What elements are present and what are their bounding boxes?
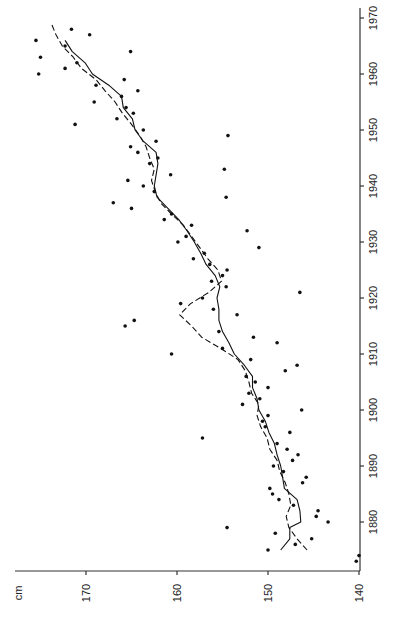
observation-point — [94, 83, 98, 87]
observation-point — [184, 235, 188, 239]
dashed-trend-line — [51, 24, 307, 550]
observation-point — [275, 341, 279, 345]
moving-average-path — [65, 40, 301, 550]
observation-point — [224, 195, 228, 199]
observation-point — [253, 380, 257, 384]
observation-point — [261, 419, 265, 423]
observation-point — [225, 268, 229, 272]
height-tick-label: 170 — [80, 584, 92, 602]
observation-point — [283, 369, 287, 373]
observation-point — [288, 431, 292, 435]
observation-point — [271, 492, 275, 496]
observation-point — [221, 274, 225, 278]
observation-point — [301, 481, 305, 485]
observation-point — [223, 167, 227, 171]
observation-point — [37, 72, 41, 76]
observation-point — [304, 475, 308, 479]
observation-point — [39, 55, 43, 59]
year-tick-label: 1920 — [367, 286, 379, 310]
observation-point — [192, 257, 196, 261]
observation-point — [295, 363, 299, 367]
observation-point — [63, 67, 67, 71]
observation-point — [123, 324, 127, 328]
year-tick-label: 1970 — [367, 6, 379, 30]
observation-point — [115, 117, 119, 121]
height-axis-unit-label: cm — [12, 586, 24, 601]
smoothed-trend-path — [51, 24, 307, 550]
observation-point — [266, 414, 270, 418]
observation-point — [170, 212, 174, 216]
observation-point — [208, 263, 212, 267]
observation-point — [266, 548, 270, 552]
observation-point — [249, 358, 253, 362]
observation-point — [292, 503, 296, 507]
observation-point — [268, 487, 272, 491]
observation-point — [190, 223, 194, 227]
observation-point — [156, 156, 160, 160]
observation-point — [169, 173, 173, 177]
observation-point — [130, 207, 134, 211]
observation-point — [273, 531, 277, 535]
height-by-year-chart: cm170160150140 1880189019001910192019301… — [0, 0, 394, 628]
observation-point — [326, 520, 330, 524]
observation-point — [294, 543, 298, 547]
observation-point — [203, 251, 207, 255]
observation-point — [148, 162, 152, 166]
year-tick-label: 1960 — [367, 62, 379, 86]
observation-point — [285, 447, 289, 451]
observation-point — [245, 229, 249, 233]
observation-point — [314, 515, 318, 519]
observation-point — [226, 134, 230, 138]
observation-point — [298, 291, 302, 295]
observation-point — [75, 61, 79, 65]
height-tick-label: 150 — [262, 584, 274, 602]
observation-point — [201, 296, 205, 300]
observation-point — [126, 179, 130, 183]
observation-point — [210, 279, 214, 283]
observation-point — [217, 330, 221, 334]
year-tick-label: 1930 — [367, 230, 379, 254]
observation-point — [136, 89, 140, 93]
year-tick-label: 1890 — [367, 454, 379, 478]
observation-point — [34, 39, 38, 43]
year-tick-label: 1880 — [367, 510, 379, 534]
observation-point — [132, 319, 136, 323]
year-tick-label: 1940 — [367, 174, 379, 198]
observation-point — [266, 386, 270, 390]
observation-point — [124, 106, 128, 110]
observation-point — [142, 184, 146, 188]
observation-point — [252, 335, 256, 339]
observation-point — [272, 464, 276, 468]
observation-point — [176, 240, 180, 244]
observation-point — [179, 302, 183, 306]
observation-point — [129, 145, 133, 149]
observation-point — [224, 285, 228, 289]
observation-points — [34, 27, 361, 563]
observation-point — [212, 307, 216, 311]
observation-point — [201, 436, 205, 440]
observation-point — [258, 397, 262, 401]
observation-point — [225, 526, 229, 530]
year-tick-label: 1900 — [367, 398, 379, 422]
height-tick-label: 160 — [171, 584, 183, 602]
observation-point — [296, 453, 300, 457]
observation-point — [300, 408, 304, 412]
observation-point — [247, 391, 251, 395]
height-tick-label: 140 — [353, 584, 365, 602]
observation-point — [221, 347, 225, 351]
observation-point — [263, 425, 267, 429]
height-axis: cm170160150140 — [12, 571, 365, 602]
observation-point — [277, 498, 281, 502]
observation-point — [70, 27, 74, 31]
observation-point — [154, 139, 158, 143]
observation-point — [310, 537, 314, 541]
observation-point — [142, 128, 146, 132]
observation-point — [92, 100, 96, 104]
observation-point — [120, 95, 124, 99]
year-axis: 1880189019001910192019301940195019601970 — [360, 6, 379, 571]
observation-point — [129, 50, 133, 54]
observation-point — [88, 33, 92, 37]
observation-point — [73, 123, 77, 127]
year-tick-label: 1910 — [367, 342, 379, 366]
observation-point — [63, 44, 67, 48]
